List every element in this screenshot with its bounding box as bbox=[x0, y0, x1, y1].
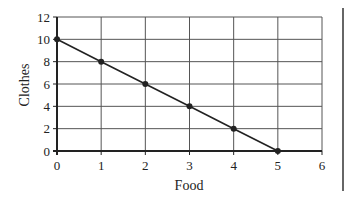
data-point-marker bbox=[187, 103, 193, 109]
data-point-marker bbox=[54, 36, 60, 42]
data-series bbox=[54, 36, 281, 154]
y-tick-label: 10 bbox=[37, 32, 50, 47]
x-tick-label: 1 bbox=[98, 158, 105, 173]
x-tick-label: 4 bbox=[230, 158, 237, 173]
series-line bbox=[57, 39, 278, 151]
y-tick-label: 4 bbox=[44, 99, 51, 114]
y-tick-label: 8 bbox=[44, 54, 51, 69]
grid-lines bbox=[57, 17, 322, 151]
y-tick-label: 6 bbox=[44, 77, 51, 92]
chart: 0123456 024681012 Food Clothes bbox=[0, 0, 349, 199]
y-axis-label: Clothes bbox=[17, 64, 32, 107]
x-tick-labels: 0123456 bbox=[54, 158, 326, 173]
x-tick-label: 5 bbox=[275, 158, 282, 173]
y-tick-labels: 024681012 bbox=[37, 10, 51, 159]
x-tick-label: 3 bbox=[186, 158, 193, 173]
x-tick-label: 6 bbox=[319, 158, 326, 173]
x-tick-label: 2 bbox=[142, 158, 149, 173]
data-point-marker bbox=[231, 126, 237, 132]
axes bbox=[53, 17, 322, 155]
data-point-marker bbox=[142, 81, 148, 87]
y-tick-label: 0 bbox=[44, 144, 51, 159]
right-border-bar bbox=[342, 8, 344, 191]
x-tick-label: 0 bbox=[54, 158, 61, 173]
y-tick-label: 12 bbox=[37, 10, 50, 25]
y-tick-label: 2 bbox=[44, 121, 51, 136]
data-point-marker bbox=[275, 148, 281, 154]
data-point-marker bbox=[98, 59, 104, 65]
x-axis-label: Food bbox=[175, 178, 204, 193]
